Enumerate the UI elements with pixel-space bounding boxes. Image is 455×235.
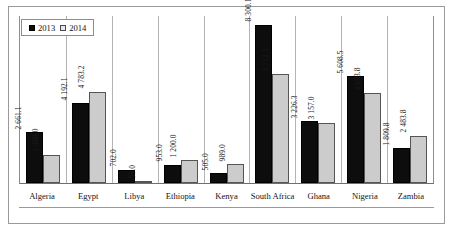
bar-value-label: 2 661.1 [16,106,23,129]
bar-2014[interactable]: 50.0 [135,16,152,183]
bar-2014[interactable]: 4 693.8 [364,16,381,183]
plot-area: 2 661.11 488.04 192.14 783.2702.050.0953… [19,16,434,184]
bar-rect[interactable] [272,74,289,183]
x-axis-label-ghana: Ghana [296,184,342,207]
bar-value-label: 702.0 [110,149,117,166]
x-axis-label-algeria: Algeria [19,184,65,207]
bar-value-label: 3 226.3 [291,96,298,119]
bar-rect[interactable] [227,164,244,183]
bar-2014[interactable]: 4 783.2 [89,16,106,183]
x-axis-label-kenya: Kenya [203,184,249,207]
bar-group: 702.050.0 [112,16,158,183]
bar-group: 3 226.33 157.0 [295,16,341,183]
legend-label-2014: 2014 [69,23,86,33]
bar-rect[interactable] [164,165,181,183]
bar-rect[interactable] [43,155,60,183]
x-axis-label-libya: Libya [111,184,157,207]
bar-value-label: 953.0 [156,145,163,162]
legend-entry-2013[interactable]: 2013 [29,23,55,33]
bar-rect[interactable] [318,123,335,183]
legend-swatch-2014-icon [60,25,66,31]
bar-2013[interactable]: 4 192.1 [72,16,89,183]
bar-value-label: 2 483.8 [400,110,407,133]
legend-swatch-2013-icon [29,25,35,31]
bar-2013[interactable]: 953.0 [164,16,181,183]
bar-2014[interactable]: 2 483.8 [410,16,427,183]
bar-value-label: 5 712.3 [262,48,269,71]
bar-2014[interactable]: 3 157.0 [318,16,335,183]
bar-rect[interactable] [347,76,364,183]
chart-figure: 2013 2014 2 661.11 488.04 192.14 783.270… [8,6,445,224]
bar-rect[interactable] [210,173,227,183]
bar-groups: 2 661.11 488.04 192.14 783.2702.050.0953… [20,16,433,183]
bar-rect[interactable] [301,121,318,183]
legend-entry-2014[interactable]: 2014 [60,23,86,33]
bar-rect[interactable] [410,136,427,183]
bar-value-label: 8 300.1 [245,0,252,22]
bar-2013[interactable]: 8 300.1 [255,16,272,183]
bar-group: 505.0989.0 [204,16,250,183]
bar-group: 4 192.14 783.2 [66,16,112,183]
bar-value-label: 1 200.0 [170,134,177,157]
bar-2013[interactable]: 2 661.1 [26,16,43,183]
bar-rect[interactable] [181,160,198,183]
bar-2014[interactable]: 1 200.0 [181,16,198,183]
chart-legend: 2013 2014 [21,19,94,36]
bar-rect[interactable] [72,103,89,183]
bar-2013[interactable]: 5 608.5 [347,16,364,183]
bar-value-label: 50.0 [129,165,136,178]
x-axis-label-zambia: Zambia [388,184,434,207]
bar-2014[interactable]: 1 488.0 [43,16,60,183]
x-axis-label-band: AlgeriaEgyptLibyaEthiopiaKenyaSouth Afri… [19,184,434,208]
legend-label-2013: 2013 [38,23,55,33]
bar-rect[interactable] [393,148,410,183]
x-axis-label-egypt: Egypt [65,184,111,207]
bar-2014[interactable]: 989.0 [227,16,244,183]
x-axis-label-ethiopia: Ethiopia [157,184,203,207]
bar-value-label: 4 192.1 [61,77,68,100]
bar-value-label: 989.0 [219,144,226,161]
bar-rect[interactable] [89,92,106,183]
bar-value-label: 4 783.2 [78,66,85,89]
bar-value-label: 1 809.8 [383,123,390,146]
bar-2013[interactable]: 1 809.8 [393,16,410,183]
bar-value-label: 1 488.0 [33,129,40,152]
bar-value-label: 5 608.5 [337,50,344,73]
x-axis-label-nigeria: Nigeria [342,184,388,207]
bar-value-label: 4 693.8 [354,68,361,91]
bar-group: 953.01 200.0 [158,16,204,183]
bar-2014[interactable]: 5 712.3 [272,16,289,183]
bar-rect[interactable] [364,93,381,183]
bar-2013[interactable]: 702.0 [118,16,135,183]
bar-value-label: 3 157.0 [308,97,315,120]
x-axis-label-south-africa: South Africa [250,184,296,207]
bar-group: 8 300.15 712.3 [249,16,295,183]
bar-group: 1 809.82 483.8 [387,16,433,183]
bar-value-label: 505.0 [202,153,209,170]
bar-rect[interactable] [135,181,152,183]
bar-group: 2 661.11 488.0 [20,16,66,183]
bar-group: 5 608.54 693.8 [341,16,387,183]
